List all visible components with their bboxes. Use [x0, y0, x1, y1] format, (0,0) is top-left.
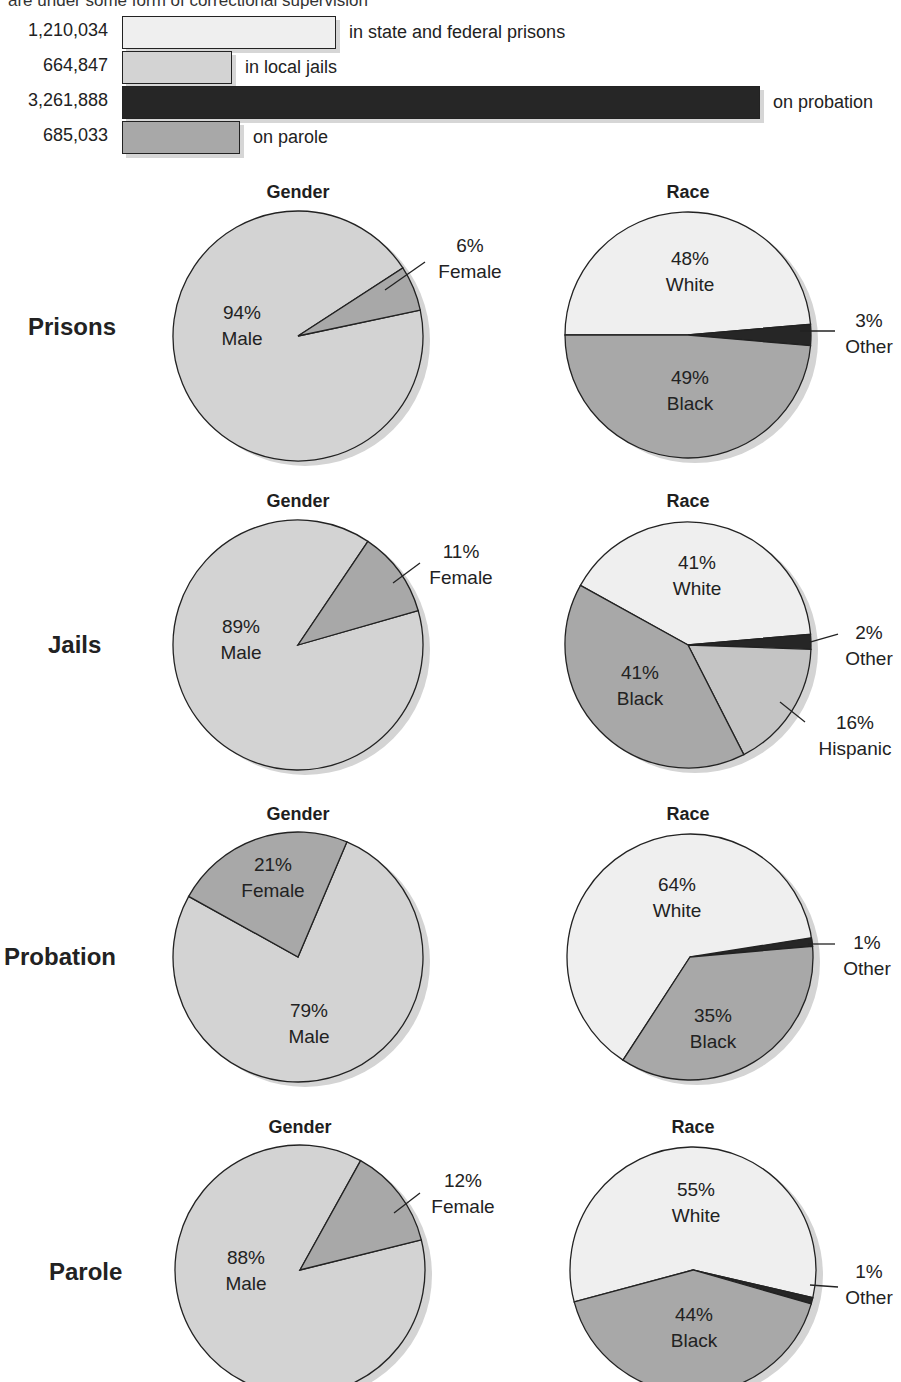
- pie-slice-label: 44%Black: [634, 1302, 754, 1354]
- pie-slice-label: 49%Black: [630, 365, 750, 417]
- pie-slice-percent: 88%: [186, 1245, 306, 1271]
- pie-slice-category: Male: [181, 640, 301, 666]
- pie-slice-label: 2%Other: [809, 620, 901, 672]
- pie-slice-category: Female: [403, 1194, 523, 1220]
- pie-slice-label: 6%Female: [410, 233, 530, 285]
- pie-slice-category: White: [637, 576, 757, 602]
- pie-slice-percent: 48%: [630, 246, 750, 272]
- pie-slice-percent: 2%: [809, 620, 901, 646]
- pie-slice-category: Black: [580, 686, 700, 712]
- pie-slice-category: Black: [653, 1029, 773, 1055]
- pie-slice-label: 11%Female: [401, 539, 521, 591]
- pie-slice-category: Female: [410, 259, 530, 285]
- pie-slice-percent: 11%: [401, 539, 521, 565]
- pie-slice-label: 79%Male: [249, 998, 369, 1050]
- pie-slice-percent: 16%: [795, 710, 901, 736]
- pie-slice-percent: 12%: [403, 1168, 523, 1194]
- pie-slice-label: 12%Female: [403, 1168, 523, 1220]
- pie-slice-percent: 49%: [630, 365, 750, 391]
- pie-slice-label: 41%Black: [580, 660, 700, 712]
- pie-slice-label: 89%Male: [181, 614, 301, 666]
- pie-slice-percent: 41%: [580, 660, 700, 686]
- pie-slice-percent: 3%: [809, 308, 901, 334]
- pie-slice-category: White: [617, 898, 737, 924]
- pie-slice-category: Female: [401, 565, 521, 591]
- pie-slice-percent: 79%: [249, 998, 369, 1024]
- pie-slice-label: 48%White: [630, 246, 750, 298]
- pie-slice-category: Other: [809, 334, 901, 360]
- pie-slice-category: Black: [634, 1328, 754, 1354]
- pie-slice-category: Male: [186, 1271, 306, 1297]
- pie-slice-category: Other: [809, 646, 901, 672]
- pie-slice-category: Male: [249, 1024, 369, 1050]
- pie-slice-label: 94%Male: [182, 300, 302, 352]
- pie-slice-label: 1%Other: [809, 1259, 901, 1311]
- pie-slice-percent: 89%: [181, 614, 301, 640]
- pie-slice-label: 16%Hispanic: [795, 710, 901, 762]
- pie-slice-label: 55%White: [636, 1177, 756, 1229]
- pie-slice-percent: 1%: [807, 930, 901, 956]
- pie-slice-category: Other: [809, 1285, 901, 1311]
- pie-slice-label: 88%Male: [186, 1245, 306, 1297]
- pie-slice-label: 3%Other: [809, 308, 901, 360]
- pie-slice-label: 41%White: [637, 550, 757, 602]
- pie-slice-label: 35%Black: [653, 1003, 773, 1055]
- pie-slice-category: Hispanic: [795, 736, 901, 762]
- pie-slice-category: Black: [630, 391, 750, 417]
- pie-slice-percent: 44%: [634, 1302, 754, 1328]
- pie-slice-label: 64%White: [617, 872, 737, 924]
- pie-slice-category: White: [630, 272, 750, 298]
- pie-slice-percent: 35%: [653, 1003, 773, 1029]
- pie-slice-category: Other: [807, 956, 901, 982]
- pie-slice-percent: 1%: [809, 1259, 901, 1285]
- pie-slice-percent: 41%: [637, 550, 757, 576]
- pie-slice-percent: 21%: [213, 852, 333, 878]
- pie-slice-percent: 64%: [617, 872, 737, 898]
- pie-slice-category: White: [636, 1203, 756, 1229]
- pie-slice-label: 1%Other: [807, 930, 901, 982]
- pie-slice-label: 21%Female: [213, 852, 333, 904]
- pie-slice-category: Female: [213, 878, 333, 904]
- pie-slice-percent: 94%: [182, 300, 302, 326]
- pie-slice-percent: 6%: [410, 233, 530, 259]
- pie-slice-percent: 55%: [636, 1177, 756, 1203]
- pie-slice-category: Male: [182, 326, 302, 352]
